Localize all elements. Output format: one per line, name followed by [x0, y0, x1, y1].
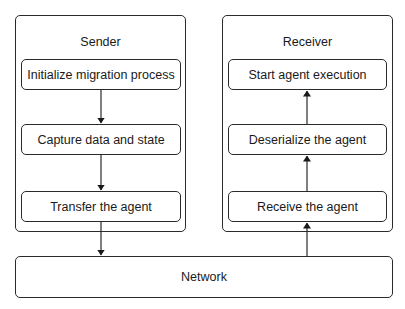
network-box: Network: [15, 256, 393, 298]
step-capture-data-state: Capture data and state: [21, 124, 181, 155]
step-label: Deserialize the agent: [249, 133, 366, 147]
step-start-agent-execution: Start agent execution: [228, 59, 387, 90]
step-label: Initialize migration process: [27, 68, 174, 82]
sender-title: Sender: [16, 34, 185, 50]
step-receive-agent: Receive the agent: [228, 191, 387, 222]
step-transfer-agent: Transfer the agent: [21, 191, 181, 222]
step-deserialize-agent: Deserialize the agent: [228, 124, 387, 155]
step-label: Receive the agent: [257, 200, 358, 214]
network-label: Network: [181, 270, 227, 284]
step-label: Start agent execution: [248, 68, 366, 82]
receiver-title: Receiver: [223, 34, 392, 50]
step-label: Transfer the agent: [50, 200, 152, 214]
step-initialize-migration: Initialize migration process: [21, 59, 181, 90]
step-label: Capture data and state: [37, 133, 164, 147]
